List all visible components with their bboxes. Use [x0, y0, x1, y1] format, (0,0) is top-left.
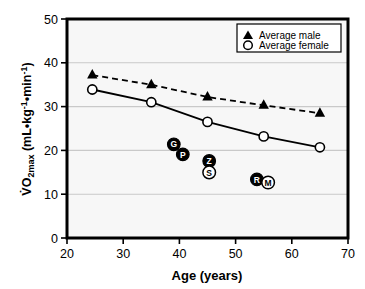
y-axis-title-units: (mL•kg	[20, 109, 34, 154]
annotation-marker-S-label: S	[206, 168, 212, 178]
ytick-label-40: 40	[44, 56, 58, 70]
annotation-marker-M: M	[262, 176, 275, 189]
ytick-label-20: 20	[44, 144, 58, 158]
y-axis-title-close: )	[20, 62, 34, 66]
legend-marker-open-circle-icon	[244, 41, 253, 50]
x-axis-title: Age (years)	[172, 268, 243, 283]
annotation-marker-S: S	[203, 166, 216, 179]
y-axis-title-sup2: -1	[19, 67, 29, 75]
annotation-marker-R-label: R	[254, 175, 260, 185]
data-point-female-24	[88, 85, 97, 94]
data-point-female-45	[203, 117, 212, 126]
ytick-label-50: 50	[44, 13, 58, 27]
annotation-marker-P-label: P	[180, 150, 186, 160]
y-axis-title-main: V̇O	[19, 177, 34, 195]
data-point-female-35	[147, 98, 156, 107]
xtick-label-60: 60	[285, 247, 299, 261]
chart-legend: Average male Average female	[237, 24, 341, 52]
vo2max-vs-age-line-chart: 50 40 30 20 10 0 20 30 40 50 60 70 Age (…	[0, 0, 365, 289]
xtick-label-20: 20	[60, 247, 74, 261]
annotation-marker-M-label: M	[265, 178, 272, 188]
xtick-label-70: 70	[341, 247, 355, 261]
y-axis-title-sup1: -1	[19, 101, 29, 109]
annotation-marker-G: G	[168, 138, 181, 151]
annotation-marker-Z-label: Z	[207, 156, 212, 166]
annotation-marker-G-label: G	[170, 139, 177, 149]
y-axis-title-mid: •min	[20, 75, 34, 102]
legend-label-average-female: Average female	[259, 40, 329, 51]
ytick-label-30: 30	[44, 100, 58, 114]
xtick-label-40: 40	[172, 247, 186, 261]
data-point-female-65	[315, 143, 324, 152]
annotation-marker-P: P	[177, 148, 190, 161]
xtick-label-50: 50	[229, 247, 243, 261]
chart-figure: 50 40 30 20 10 0 20 30 40 50 60 70 Age (…	[0, 0, 365, 289]
ytick-label-0: 0	[51, 232, 58, 246]
ytick-label-10: 10	[44, 188, 58, 202]
data-point-female-55	[259, 132, 268, 141]
y-axis-title-sub: 2max	[26, 155, 36, 178]
xtick-label-30: 30	[116, 247, 130, 261]
